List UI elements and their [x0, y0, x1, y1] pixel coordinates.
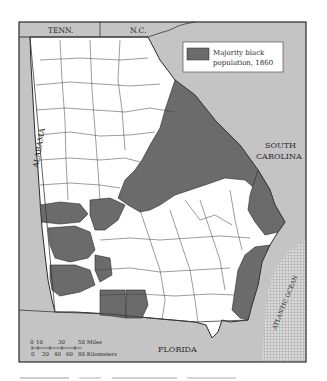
- legend-swatch: [187, 48, 209, 60]
- scale-miles-0: 0: [30, 339, 34, 345]
- label-florida: FLORIDA: [158, 345, 197, 354]
- label-nc: N.C.: [130, 26, 146, 35]
- georgia-1860-map: TENN. N.C. SOUTH CAROLINA ALABAMA FLORID…: [0, 0, 327, 381]
- scale-km-80: 80 Kilometers: [78, 351, 117, 357]
- label-tenn: TENN.: [48, 26, 74, 35]
- label-south: SOUTH: [265, 141, 296, 150]
- scale-miles-50: 50 Miles: [78, 339, 102, 345]
- legend: Majority black population, 1860: [183, 42, 283, 72]
- legend-label-line1: Majority black: [213, 49, 265, 57]
- label-carolina: CAROLINA: [256, 152, 302, 161]
- legend-label-line2: population, 1860: [213, 59, 273, 67]
- scale-miles-10: 10: [36, 339, 43, 345]
- scale-km-0: 0: [31, 351, 35, 357]
- scale-km-40: 40: [54, 351, 61, 357]
- cut-off-caption: [20, 370, 290, 380]
- scale-km-60: 60: [66, 351, 73, 357]
- scale-km-20: 20: [42, 351, 49, 357]
- scale-miles-30: 30: [58, 339, 65, 345]
